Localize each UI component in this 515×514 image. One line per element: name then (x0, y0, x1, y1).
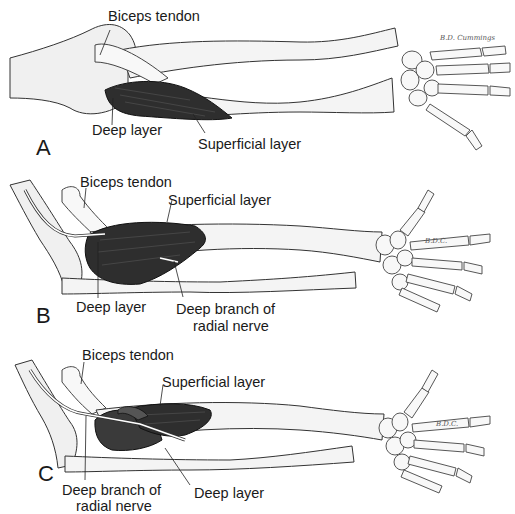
panel-c: B.D.C. Biceps tendon Superficial layer D… (0, 340, 515, 514)
label-superficial-layer: Superficial layer (168, 192, 271, 208)
label-deep-layer: Deep layer (76, 299, 146, 315)
label-deep-layer: Deep layer (194, 485, 264, 501)
label-deep-branch-line1: Deep branch of (62, 482, 161, 498)
label-biceps-tendon: Biceps tendon (80, 174, 172, 190)
panel-letter: A (36, 137, 51, 159)
label-biceps-tendon: Biceps tendon (82, 347, 174, 363)
label-deep-layer: Deep layer (92, 122, 162, 138)
label-biceps-tendon: Biceps tendon (108, 8, 200, 24)
label-deep-branch-line2: radial nerve (193, 318, 269, 334)
panel-letter: C (38, 463, 54, 485)
label-superficial-layer: Superficial layer (198, 136, 301, 152)
panel-a: B.D. Cummings Biceps tendon Deep layer S… (0, 0, 515, 170)
panel-letter: B (36, 305, 51, 327)
panel-b: B.D.C. Biceps tendon Superficial layer D… (0, 170, 515, 340)
label-superficial-layer: Superficial layer (162, 374, 265, 390)
label-deep-branch-line2: radial nerve (76, 498, 152, 514)
label-deep-branch-line1: Deep branch of (176, 301, 275, 317)
